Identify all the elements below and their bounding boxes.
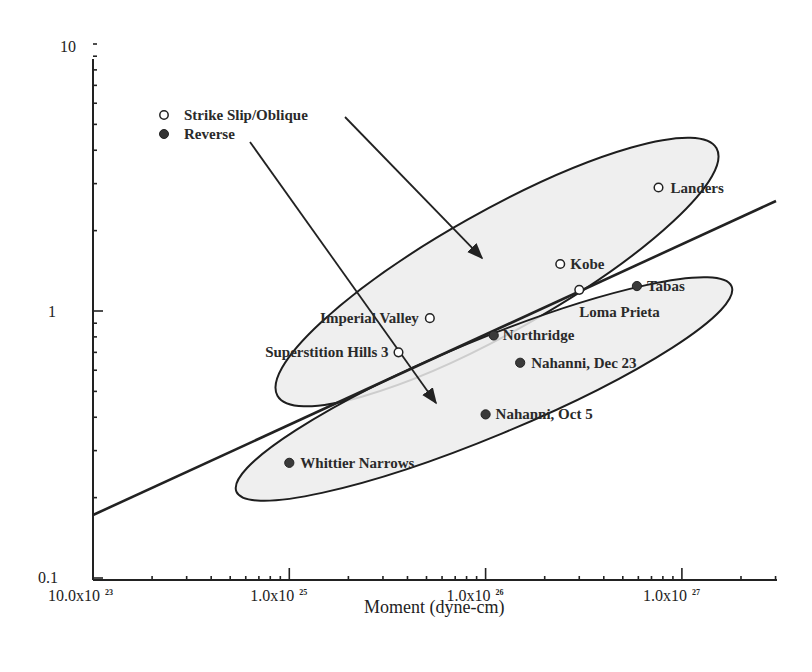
point-label: Loma Prieta (579, 304, 660, 320)
open-circle-marker (426, 314, 435, 323)
scatter-chart: 10 1 0.1 10.0x10231.0x10251.0x10261.0x10… (0, 0, 812, 672)
x-tick-label: 10.0x1023 (48, 587, 113, 604)
legend-open-circle-icon (160, 111, 168, 119)
legend-label-strike-slip: Strike Slip/Oblique (184, 107, 308, 123)
y-axis: 10 1 0.1 (38, 38, 103, 586)
filled-circle-marker (285, 458, 294, 467)
y-tick-label-1: 1 (48, 303, 56, 320)
legend: Strike Slip/Oblique Reverse (160, 107, 309, 142)
legend-filled-circle-icon (160, 130, 169, 139)
point-label: Northridge (503, 327, 575, 343)
y-tick-label-10: 10 (60, 38, 76, 55)
open-circle-marker (394, 348, 403, 357)
open-circle-marker (654, 183, 663, 192)
point-label: Whittier Narrows (300, 455, 414, 471)
point-label: Landers (671, 180, 725, 196)
ellipses (218, 96, 750, 536)
x-axis-title: Moment (dyne-cm) (364, 597, 504, 618)
point-label: Kobe (570, 256, 605, 272)
point-label: Tabas (647, 278, 685, 294)
open-circle-marker (556, 260, 565, 269)
filled-circle-marker (481, 410, 490, 419)
filled-circle-marker (632, 281, 641, 290)
y-tick-label-0.1: 0.1 (38, 569, 58, 586)
filled-circle-marker (516, 358, 525, 367)
point-label: Nahanni, Dec 23 (531, 355, 636, 371)
x-tick-label: 1.0x1027 (643, 587, 700, 604)
filled-circle-marker (489, 331, 498, 340)
strike-slip-arrow (345, 117, 482, 258)
point-label: Nahanni, Oct 5 (496, 406, 593, 422)
legend-label-reverse: Reverse (184, 126, 235, 142)
x-axis: 10.0x10231.0x10251.0x10261.0x1027 Moment… (48, 568, 777, 618)
open-circle-marker (575, 286, 584, 295)
x-tick-label: 1.0x1025 (250, 587, 307, 604)
point-label: Imperial Valley (320, 310, 419, 326)
point-label: Superstition Hills 3 (265, 344, 388, 360)
